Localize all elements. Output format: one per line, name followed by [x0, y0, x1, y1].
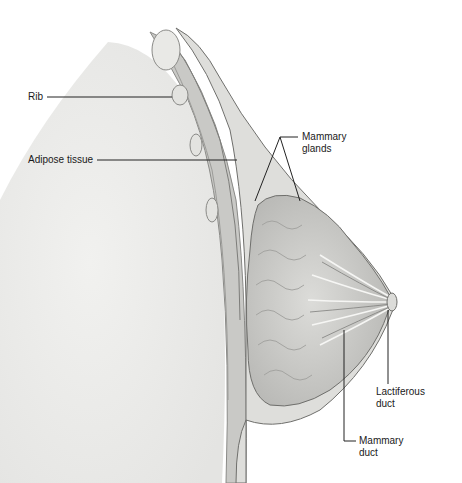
breast-anatomy-illustration: [0, 0, 462, 483]
nipple: [387, 293, 397, 311]
rib-bone: [152, 30, 180, 70]
label-rib: Rib: [28, 91, 43, 103]
label-adipose-tissue: Adipose tissue: [28, 154, 93, 166]
label-lactiferous-duct: Lactiferous duct: [376, 386, 425, 410]
label-mammary-glands: Mammary glands: [302, 131, 346, 155]
label-mammary-duct: Mammary duct: [359, 435, 403, 459]
